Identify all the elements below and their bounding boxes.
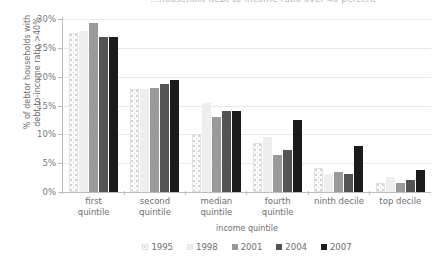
chart-legend: 19951998200120042007 (63, 240, 431, 254)
y-axis-tick (58, 19, 63, 20)
x-axis-group-tick (185, 191, 186, 195)
legend-item-1998[interactable]: 1998 (187, 242, 218, 252)
legend-label: 1995 (151, 242, 173, 252)
cropped-title: …household debt-to-income ratio over 40 … (150, 0, 420, 6)
bar-group (124, 19, 185, 192)
bar-1998-median-quintile[interactable] (202, 103, 211, 192)
y-axis-tick (58, 163, 63, 164)
y-axis-tick-label: 30% (16, 15, 56, 23)
bar-1995-fourth-quintile[interactable] (253, 143, 262, 192)
y-axis-tick (58, 192, 63, 193)
bar-2004-top-decile[interactable] (406, 180, 415, 192)
x-axis-category-label: medianquintile (186, 196, 247, 222)
y-axis-tick-label: 20% (16, 73, 56, 81)
x-axis-group-tick (308, 191, 309, 195)
y-axis-labels: % of debtor households with debt-to-inco… (10, 0, 56, 260)
bar-2004-ninth-decile[interactable] (344, 174, 353, 192)
bar-1998-top-decile[interactable] (386, 177, 395, 192)
x-axis-category-label: fourthquintile (247, 196, 308, 222)
bar-1995-median-quintile[interactable] (192, 134, 201, 192)
bar-2007-top-decile[interactable] (416, 170, 425, 192)
cropped-title-text: …household debt-to-income ratio over 40 … (150, 0, 420, 4)
bar-2001-second-quintile[interactable] (150, 88, 159, 192)
legend-label: 2007 (330, 242, 352, 252)
bar-group (308, 19, 369, 192)
y-axis-tick-label: 15% (16, 102, 56, 110)
legend-label: 2004 (285, 242, 307, 252)
bar-2007-fourth-quintile[interactable] (293, 120, 302, 192)
bar-1998-first-quintile[interactable] (79, 31, 88, 192)
bar-2004-median-quintile[interactable] (222, 111, 231, 192)
bar-1995-first-quintile[interactable] (69, 33, 78, 192)
bar-2001-first-quintile[interactable] (89, 23, 98, 192)
bar-group (247, 19, 308, 192)
y-axis-tick-label: 25% (16, 44, 56, 52)
x-axis-group-tick (369, 191, 370, 195)
y-axis-tick (58, 106, 63, 107)
legend-swatch-icon (321, 244, 327, 250)
legend-swatch-icon (276, 244, 282, 250)
bar-2001-top-decile[interactable] (396, 183, 405, 192)
bar-groups (63, 19, 431, 192)
legend-swatch-icon (187, 244, 193, 250)
bar-2001-ninth-decile[interactable] (334, 172, 343, 192)
x-axis-title: income quintile (63, 224, 431, 233)
y-axis-tick (58, 134, 63, 135)
x-axis-category-label: ninth decile (308, 196, 369, 222)
y-axis-tick (58, 77, 63, 78)
legend-label: 1998 (196, 242, 218, 252)
bar-2004-second-quintile[interactable] (160, 84, 169, 192)
y-axis-tick-label: 0% (16, 188, 56, 196)
y-axis-tick (58, 48, 63, 49)
bar-1995-top-decile[interactable] (376, 183, 385, 192)
x-axis-category-label: top decile (370, 196, 431, 222)
bar-2007-median-quintile[interactable] (232, 111, 241, 192)
bar-1998-fourth-quintile[interactable] (263, 137, 272, 192)
y-axis-tick-label: 5% (16, 159, 56, 167)
legend-item-2004[interactable]: 2004 (276, 242, 307, 252)
bar-2004-fourth-quintile[interactable] (283, 150, 292, 192)
bar-2007-first-quintile[interactable] (109, 37, 118, 192)
legend-item-1995[interactable]: 1995 (142, 242, 173, 252)
legend-label: 2001 (241, 242, 263, 252)
bar-1995-ninth-decile[interactable] (314, 168, 323, 192)
x-axis-category-label: secondquintile (124, 196, 185, 222)
y-axis-tick-label: 10% (16, 130, 56, 138)
bar-1998-second-quintile[interactable] (140, 89, 149, 192)
bar-2004-first-quintile[interactable] (99, 37, 108, 192)
legend-swatch-icon (232, 244, 238, 250)
x-axis-group-tick (124, 191, 125, 195)
legend-item-2001[interactable]: 2001 (232, 242, 263, 252)
legend-swatch-icon (142, 244, 148, 250)
bar-2007-ninth-decile[interactable] (354, 146, 363, 192)
bar-group (370, 19, 431, 192)
x-axis-categories: firstquintilesecondquintilemedianquintil… (63, 196, 431, 222)
x-axis-category-label: firstquintile (63, 196, 124, 222)
bar-group (63, 19, 124, 192)
legend-item-2007[interactable]: 2007 (321, 242, 352, 252)
bar-2001-median-quintile[interactable] (212, 117, 221, 192)
x-axis-group-tick (246, 191, 247, 195)
bar-2007-second-quintile[interactable] (170, 80, 179, 192)
bar-1998-ninth-decile[interactable] (324, 174, 333, 192)
bar-chart: …household debt-to-income ratio over 40 … (0, 0, 438, 260)
bar-1995-second-quintile[interactable] (130, 89, 139, 192)
bar-group (186, 19, 247, 192)
bar-2001-fourth-quintile[interactable] (273, 155, 282, 192)
